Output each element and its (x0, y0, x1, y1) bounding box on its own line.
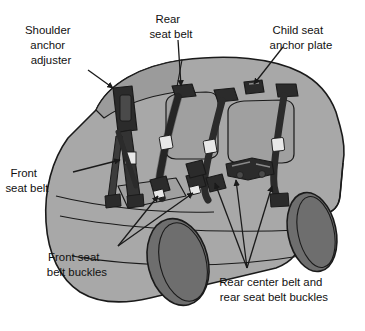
label-line: Rear (155, 13, 180, 25)
label-line: seat belt (149, 28, 193, 40)
rear-buckle-right (206, 174, 226, 192)
seat-belt-diagram: Shoulder anchor adjuster Rear seat belt … (0, 0, 365, 331)
rear-buckle-left (186, 160, 206, 178)
label-line: anchor (30, 39, 65, 51)
label-line: rear seat belt buckles (220, 291, 329, 303)
label-line: belt buckles (47, 266, 107, 278)
leader-shoulder-anchor-adjuster (88, 70, 113, 88)
label-line: anchor plate (270, 39, 333, 51)
label-line: Shoulder (25, 24, 71, 36)
diagram-canvas: Shoulder anchor adjuster Rear seat belt … (0, 0, 365, 331)
label-line: Rear center belt and (219, 276, 322, 288)
label-line: Front (10, 167, 37, 179)
label-line: Child seat (272, 24, 323, 36)
child-seat-anchor-plate-part (244, 80, 264, 94)
label-line: adjuster (31, 54, 72, 66)
label-line: seat belt (5, 182, 49, 194)
label-line: Front seat (48, 251, 100, 263)
label-shoulder-anchor-adjuster: Shoulder anchor adjuster (0, 0, 99, 66)
